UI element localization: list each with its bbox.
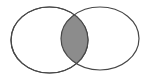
venn-diagram (0, 0, 147, 77)
